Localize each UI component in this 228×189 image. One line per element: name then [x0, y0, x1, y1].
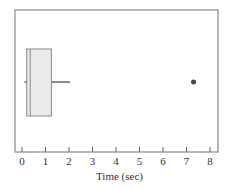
x-tick-label: 0	[19, 155, 25, 167]
x-tick-label: 7	[184, 155, 190, 167]
box-plot-chart: 012345678Time (sec)	[0, 0, 228, 189]
outlier-point	[191, 80, 196, 85]
x-tick-label: 2	[66, 155, 72, 167]
x-tick-label: 5	[137, 155, 143, 167]
x-tick-label: 8	[207, 155, 213, 167]
x-axis-label: Time (sec)	[96, 170, 143, 183]
x-tick-label: 6	[160, 155, 166, 167]
x-tick-label: 1	[43, 155, 49, 167]
x-tick-label: 4	[113, 155, 119, 167]
x-tick-label: 3	[90, 155, 96, 167]
